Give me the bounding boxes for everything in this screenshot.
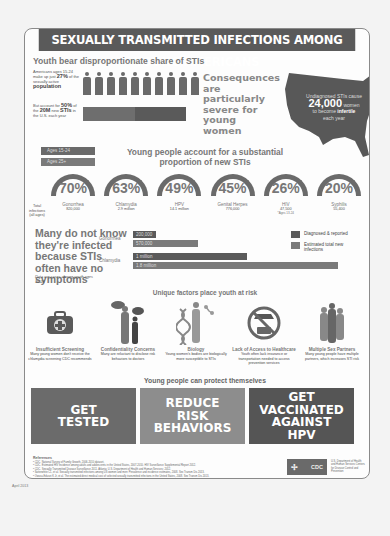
risk-factor: Insufficient ScreeningMany young women d… bbox=[27, 301, 93, 361]
person-icon bbox=[95, 72, 103, 96]
action-label: REDUCE RISK BEHAVIORS bbox=[140, 397, 246, 435]
person-icon bbox=[191, 72, 199, 96]
dna-body-icon bbox=[163, 301, 229, 345]
population-stat: Americans ages 15-24 make up just 27% of… bbox=[33, 69, 79, 89]
bar-diagnosed: 200,000 bbox=[133, 231, 156, 238]
sti-share-bar bbox=[83, 107, 186, 121]
reference-line: • Owusu-Edusei K Jr, et al. The estimate… bbox=[33, 475, 273, 479]
action-box: REDUCE RISK BEHAVIORS bbox=[140, 388, 245, 444]
gauge-percent: 20% bbox=[313, 180, 365, 196]
gauge-total-infections: 55,400 bbox=[313, 207, 365, 211]
infographic-frame: SEXUALLY TRANSMITTED INFECTIONS AMONG YO… bbox=[24, 28, 370, 479]
bar-estimated: 1.8 million bbox=[133, 262, 338, 269]
speech-people-icon bbox=[95, 301, 161, 345]
crowd-icon bbox=[299, 301, 365, 345]
action-label: GET TESTED bbox=[31, 404, 136, 429]
gauge-percent: 70% bbox=[47, 180, 99, 196]
legend-ages-25-plus: Ages 25+ bbox=[41, 158, 95, 166]
bar-estimated: 570,000 bbox=[133, 240, 198, 247]
risk-factor: Multiple Sex PartnersMany young people h… bbox=[299, 301, 365, 361]
sti-gauge: 20%Syphilis55,400 bbox=[313, 174, 365, 215]
page-title: SEXUALLY TRANSMITTED INFECTIONS AMONG YO… bbox=[39, 29, 355, 51]
person-icon bbox=[167, 72, 175, 96]
bar-others bbox=[135, 107, 187, 121]
bar-youth bbox=[83, 107, 135, 121]
legend-swatch-estimated bbox=[291, 242, 300, 249]
person-icon bbox=[179, 72, 187, 96]
bar-group-label: Gonorrhea bbox=[99, 236, 121, 241]
person-icon bbox=[131, 72, 139, 96]
proportion-title: Young people account for a substantial p… bbox=[125, 147, 285, 167]
gauge-note: *Ages 13-24 bbox=[260, 211, 312, 215]
protect-title: Young people can protect themselves bbox=[115, 377, 295, 384]
person-icon bbox=[143, 72, 151, 96]
risk-factor-description: Many are reluctant to disclose risk beha… bbox=[95, 352, 161, 361]
person-icon bbox=[155, 72, 163, 96]
sti-gauge: 70%Gonorrhea820,000 bbox=[47, 174, 99, 215]
risk-factor-description: Many young women don't receive the chlam… bbox=[27, 352, 93, 361]
gauge-percent: 26% bbox=[260, 180, 312, 196]
person-icon bbox=[119, 72, 127, 96]
gauge-total-infections: 2.9 million bbox=[100, 207, 152, 211]
gauge-total-infections: 14.1 million bbox=[153, 207, 205, 211]
action-label: GET VACCINATED AGAINST HPV bbox=[245, 391, 358, 441]
medical-kit-icon bbox=[27, 301, 93, 345]
risk-factor: Confidentiality ConcernsMany are relucta… bbox=[95, 301, 161, 361]
agency-name: U.S. Department of Health and Human Serv… bbox=[331, 460, 365, 474]
sti-gauges: 70%Gonorrhea820,00063%Chlamydia2.9 milli… bbox=[47, 174, 365, 215]
person-icon bbox=[107, 72, 115, 96]
gauge-percent: 49% bbox=[153, 180, 205, 196]
sti-gauge: 49%HPV14.1 million bbox=[153, 174, 205, 215]
sti-gauge: 26%HIV47,500*Ages 13-24 bbox=[260, 174, 312, 215]
consequences-text: Consequences are particularly severe for… bbox=[203, 73, 275, 136]
risk-factor-description: Many young people have multiple partners… bbox=[299, 352, 365, 361]
factors-title: Unique factors place youth at risk bbox=[135, 289, 275, 296]
infertility-stat: Undiagnosed STIs cause 24,000 women to b… bbox=[287, 93, 370, 121]
action-box: GET TESTED bbox=[31, 388, 136, 444]
gauge-percent: 63% bbox=[100, 180, 152, 196]
bar-diagnosed: 1 million bbox=[133, 253, 247, 260]
unaware-note: Data are cases among youth ages 15-24 bbox=[35, 275, 95, 285]
share-title: Youth bear disproportionate share of STI… bbox=[33, 56, 204, 66]
person-icon bbox=[83, 72, 91, 96]
gauge-total-infections: 820,000 bbox=[47, 207, 99, 211]
gauge-percent: 45% bbox=[207, 180, 259, 196]
sti-gauge: 45%Genital Herpes776,000 bbox=[207, 174, 259, 215]
risk-factor-description: Youth often lack insurance or transporta… bbox=[231, 352, 297, 366]
unaware-legend: Diagnosed & reported Estimated total new… bbox=[291, 231, 361, 256]
age-legend: Ages 15-24 Ages 25+ bbox=[41, 147, 95, 166]
risk-factor: BiologyYoung women's bodies are biologic… bbox=[163, 301, 229, 361]
cdc-logo: ✢ CDC bbox=[287, 459, 327, 475]
publish-date: April 2013 bbox=[12, 484, 28, 488]
risk-factor-description: Young women's bodies are biologically mo… bbox=[163, 352, 229, 361]
legend-ages-15-24: Ages 15-24 bbox=[41, 147, 95, 155]
total-infections-label: Total infections (all ages) bbox=[29, 204, 45, 218]
people-icons bbox=[83, 72, 199, 96]
gauge-total-infections: 776,000 bbox=[207, 207, 259, 211]
legend-swatch-diagnosed bbox=[291, 231, 300, 238]
sti-gauge: 63%Chlamydia2.9 million bbox=[100, 174, 152, 215]
bar-group-label: Chlamydia bbox=[99, 258, 120, 263]
references: References • CDC. National Survey of Fam… bbox=[33, 457, 273, 479]
sti-stat: But account for 50% of the 20M new STIs … bbox=[33, 103, 79, 118]
risk-factor: Lack of Access to HealthcareYouth often … bbox=[231, 301, 297, 366]
no-car-icon bbox=[231, 301, 297, 345]
action-box: GET VACCINATED AGAINST HPV bbox=[249, 388, 354, 444]
hhs-eagle-icon: ✢ bbox=[291, 463, 298, 472]
